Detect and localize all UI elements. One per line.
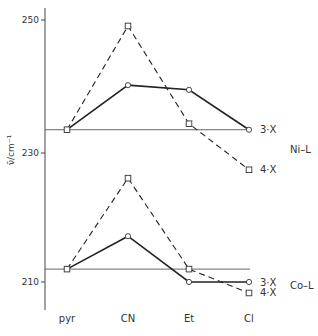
- series-line: [67, 85, 249, 130]
- square-marker: [125, 175, 131, 181]
- circle-marker: [186, 87, 191, 92]
- circle-marker: [186, 279, 191, 284]
- square-marker: [246, 290, 252, 296]
- x-tick-label: pyr: [59, 313, 76, 324]
- circle-marker: [125, 83, 130, 88]
- series-label: 3·X: [260, 277, 277, 288]
- series-line: [67, 178, 249, 293]
- square-marker: [64, 266, 70, 272]
- group-label: Ni–L: [290, 144, 311, 155]
- square-marker: [186, 266, 192, 272]
- circle-marker: [246, 127, 251, 132]
- y-tick-label: 230: [22, 148, 39, 158]
- x-tick-labels: pyrCNEtCl: [59, 313, 254, 324]
- y-axis-label: ν̄/cm⁻¹: [6, 135, 16, 166]
- group-label: Co–L: [290, 280, 314, 291]
- chart: 210230250 ν̄/cm⁻¹ 3·X4·XNi–L3·X4·XCo–L p…: [0, 0, 318, 336]
- baselines: [45, 130, 250, 269]
- square-marker: [64, 127, 70, 133]
- square-marker: [186, 121, 192, 127]
- x-tick-label: Et: [184, 313, 194, 324]
- y-tick-label: 210: [22, 277, 39, 287]
- series-label: 3·X: [260, 124, 277, 135]
- circle-marker: [246, 279, 251, 284]
- square-marker: [246, 167, 252, 173]
- y-tick-label: 250: [22, 15, 39, 25]
- circle-marker: [125, 234, 130, 239]
- series-line: [67, 236, 249, 282]
- series-labels: 3·X4·XNi–L3·X4·XCo–L: [260, 124, 314, 298]
- series-label: 4·X: [260, 164, 277, 175]
- y-ticks: 210230250: [22, 15, 45, 287]
- series-line: [67, 26, 249, 170]
- x-tick-label: CN: [121, 313, 135, 324]
- square-marker: [125, 23, 131, 29]
- x-tick-label: Cl: [244, 313, 254, 324]
- series-label: 4·X: [260, 287, 277, 298]
- series-lines: [67, 26, 249, 293]
